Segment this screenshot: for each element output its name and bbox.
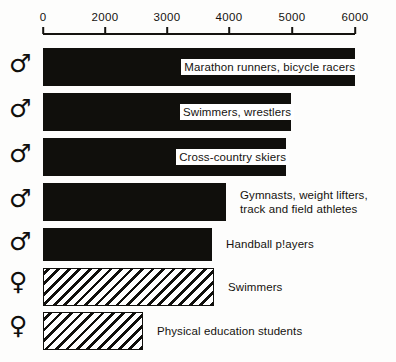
chart-plot-area: ♂Marathon runners, bicycle racers♂Swimme… — [0, 40, 396, 362]
chart-bar-row: ♀Physical education students — [0, 311, 396, 355]
mars-symbol-icon: ♂ — [9, 96, 31, 121]
chart-bar-label: Handball p!ayers — [226, 237, 314, 252]
chart-bar — [43, 312, 143, 350]
chart-bar — [43, 228, 212, 261]
chart-x-axis: 020003000400050006000 — [0, 0, 396, 40]
chart-bar-row: ♂Gymnasts, weight lifters, track and fie… — [0, 180, 396, 224]
chart-bar-row: ♂Swimmers, wrestlers — [0, 90, 396, 134]
axis-tick-label: 5000 — [279, 11, 306, 23]
mars-symbol-icon: ♂ — [9, 51, 31, 76]
chart-bar-label: Physical education students — [157, 324, 302, 339]
axis-tick-label: 2000 — [92, 11, 119, 23]
venus-symbol-icon: ♀ — [9, 313, 27, 338]
mars-symbol-icon: ♂ — [9, 229, 31, 254]
chart-bar-label: Swimmers, wrestlers — [180, 104, 294, 120]
chart-bar-row: ♂Handball p!ayers — [0, 226, 396, 265]
chart-bar-row: ♂Marathon runners, bicycle racers — [0, 45, 396, 89]
axis-tick-label: 3000 — [154, 11, 181, 23]
axis-tick-label: 0 — [40, 11, 47, 23]
bar-chart: 020003000400050006000 ♂Marathon runners,… — [0, 0, 396, 362]
axis-tick-mark — [166, 27, 168, 34]
mars-symbol-icon: ♂ — [9, 186, 31, 211]
chart-bar-label: Swimmers — [228, 280, 282, 295]
chart-bar-label: Marathon runners, bicycle racers — [181, 59, 358, 75]
chart-bar-label: Cross-country skiers — [176, 149, 289, 165]
chart-bar-row: ♂Cross-country skiers — [0, 135, 396, 179]
axis-tick-mark — [228, 27, 230, 34]
axis-tick-mark — [354, 27, 356, 34]
chart-bar-label: Gymnasts, weight lifters, track and fiel… — [240, 188, 368, 217]
chart-bar — [43, 183, 226, 221]
axis-tick-label: 4000 — [216, 11, 243, 23]
axis-tick-mark — [291, 27, 293, 34]
mars-symbol-icon: ♂ — [9, 141, 31, 166]
venus-symbol-icon: ♀ — [9, 269, 27, 294]
axis-tick-mark — [42, 27, 44, 34]
axis-tick-mark — [104, 27, 106, 34]
axis-line — [43, 33, 355, 35]
chart-bar — [43, 268, 214, 306]
chart-bar-row: ♀Swimmers — [0, 267, 396, 311]
axis-tick-label: 6000 — [342, 11, 369, 23]
